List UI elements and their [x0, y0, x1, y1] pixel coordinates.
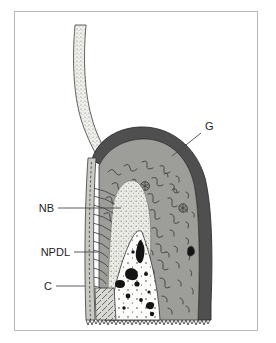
label-g: G — [205, 120, 214, 132]
figure-root: G NB NPDL C — [0, 0, 276, 343]
label-nb: NB — [39, 202, 54, 214]
histology-diagram: G NB NPDL C — [0, 0, 276, 343]
label-c: C — [44, 280, 52, 292]
cementum-region — [85, 158, 96, 320]
specimen-torn-edge — [86, 320, 210, 325]
label-npdl: NPDL — [41, 246, 70, 258]
dentin-hatch-region — [95, 288, 116, 320]
tooth-root-region — [74, 25, 109, 158]
cell-cluster-right — [179, 204, 187, 212]
blood-vessel-lumen — [187, 246, 194, 256]
